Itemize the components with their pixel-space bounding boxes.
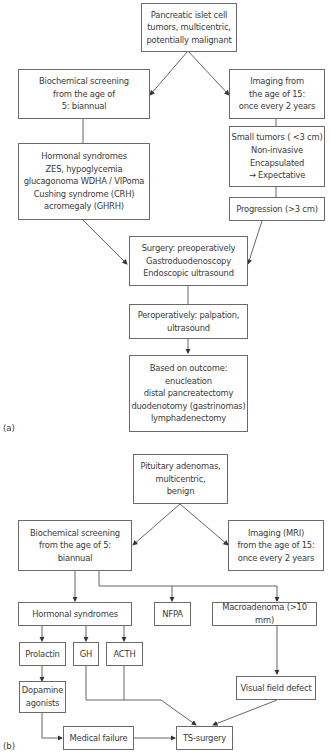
b-dopamine-box: Dopamine agonists: [19, 681, 66, 713]
b-panel-label: (b): [3, 740, 15, 751]
b-nfpa-box: NFPA: [154, 602, 191, 626]
b-biochemical-box: Biochemical screening from the age of 5:…: [18, 520, 132, 571]
b-visual-field-box: Visual field defect: [236, 676, 316, 700]
b-medical-failure-box: Medical failure: [63, 726, 134, 750]
a-panel-label: (a): [3, 422, 15, 433]
b-gh-box: GH: [73, 642, 99, 666]
a-peroperative-box: Peroperatively: palpation, ultrasound: [129, 304, 248, 339]
b-prolactin-box: Prolactin: [19, 642, 66, 666]
b-macroadenoma-box: Macroadenoma (>10 mm): [212, 602, 317, 626]
a-hormonal-box: Hormonal syndromes ZES, hypoglycemia glu…: [18, 143, 150, 220]
a-progression-box: Progression (>3 cm): [229, 197, 325, 221]
b-acth-box: ACTH: [106, 642, 143, 666]
b-hormonal-box: Hormonal syndromes: [18, 602, 132, 626]
a-biochemical-box: Biochemical screening from the age of 5:…: [18, 69, 150, 119]
a-small-tumors-box: Small tumors ( <3 cm) Non-invasive Encap…: [229, 126, 325, 187]
b-imaging-box: Imaging (MRI) from the age of 15: once e…: [228, 520, 324, 571]
a-outcome-box: Based on outcome: enucleation distal pan…: [129, 355, 248, 432]
a-root-box: Pancreatic islet cell tumors, multicentr…: [141, 3, 237, 52]
a-surgery-box: Surgery: preoperatively Gastroduodenosco…: [129, 236, 248, 286]
b-root-box: Pituitary adenomas, multicentric, benign: [133, 454, 228, 504]
a-imaging-box: Imaging from the age of 15: once every 2…: [229, 69, 325, 119]
b-ts-surgery-box: TS-surgery: [176, 726, 233, 750]
